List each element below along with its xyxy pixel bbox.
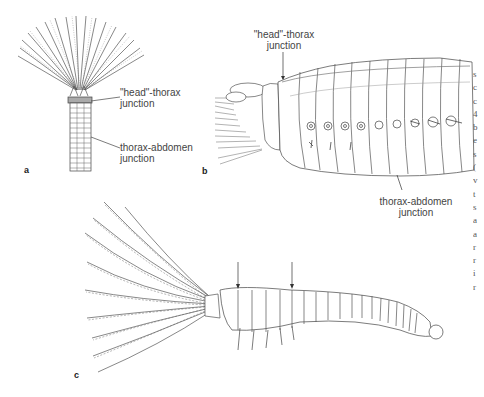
- text-fragment: i: [473, 267, 484, 280]
- label-line: thorax-abdomen: [374, 196, 458, 207]
- panel-a-tentacles: [18, 16, 144, 90]
- text-fragment: r: [473, 281, 484, 294]
- text-fragment: b: [473, 121, 484, 134]
- text-fragment: 4: [473, 108, 484, 121]
- text-fragment: s: [473, 201, 484, 214]
- label-line: "head"-thorax: [246, 29, 322, 40]
- panel-c-worm-drawing: [85, 202, 443, 372]
- cropped-text-column: s c c 4 b e s ( v t s a a r r i r: [473, 68, 484, 294]
- text-fragment: c: [473, 81, 484, 94]
- label-line: thorax-abdomen: [120, 142, 193, 153]
- text-fragment: c: [473, 95, 484, 108]
- panel-b-letter: b: [202, 166, 208, 176]
- label-line: "head"-thorax: [120, 87, 180, 98]
- panel-a-thorax-abdomen-label: thorax-abdomen junction: [120, 142, 193, 164]
- text-fragment: r: [473, 254, 484, 267]
- label-line: junction: [374, 207, 458, 218]
- text-fragment: a: [473, 228, 484, 241]
- text-fragment: v: [473, 174, 484, 187]
- panel-a-head-thorax-label: "head"-thorax junction: [120, 87, 180, 109]
- text-fragment: e: [473, 134, 484, 147]
- panel-a-letter: a: [24, 165, 29, 175]
- text-fragment: r: [473, 241, 484, 254]
- panel-b-head-thorax-label: "head"-thorax junction: [246, 29, 322, 51]
- label-line: junction: [246, 40, 322, 51]
- panel-c-letter: c: [74, 370, 79, 380]
- panel-b-worm-drawing: [215, 52, 474, 190]
- label-line: junction: [120, 153, 193, 164]
- label-line: junction: [120, 98, 180, 109]
- text-fragment: a: [473, 214, 484, 227]
- text-fragment: s: [473, 148, 484, 161]
- text-fragment: (: [473, 161, 484, 174]
- panel-b-thorax-abdomen-label: thorax-abdomen junction: [374, 196, 458, 218]
- text-fragment: t: [473, 188, 484, 201]
- text-fragment: s: [473, 68, 484, 81]
